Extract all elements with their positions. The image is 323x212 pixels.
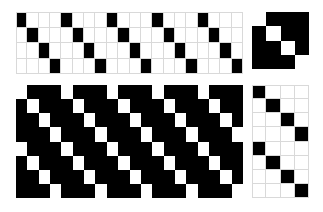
grid-cell: [152, 156, 163, 170]
grid-cell: [281, 26, 295, 40]
grid-cell: [50, 142, 61, 156]
grid-cell: [84, 43, 95, 59]
grid-cell: [232, 12, 243, 28]
grid-cell: [73, 127, 84, 141]
grid-cell: [84, 170, 95, 184]
grid-cell: [186, 142, 197, 156]
grid-cell: [107, 184, 118, 198]
grid-cell: [186, 85, 197, 99]
grid-cell: [50, 43, 61, 59]
grid-cell: [39, 142, 50, 156]
grid-cell: [130, 184, 141, 198]
grid-cell: [252, 41, 266, 55]
grid-cell: [220, 184, 231, 198]
grid-cell: [61, 85, 72, 99]
grid-cell: [281, 41, 295, 55]
grid-cell: [39, 99, 50, 113]
grid-cell: [107, 59, 118, 75]
grid-cell: [220, 113, 231, 127]
grid-cell: [95, 43, 106, 59]
grid-cell: [220, 142, 231, 156]
grid-cell: [50, 113, 61, 127]
grid-cell: [61, 170, 72, 184]
grid-cell: [232, 142, 243, 156]
grid-cell: [130, 12, 141, 28]
grid-cell: [50, 170, 61, 184]
grid-cell: [95, 127, 106, 141]
grid-cell: [39, 43, 50, 59]
grid-cell: [266, 184, 280, 198]
grid-cell: [175, 43, 186, 59]
grid-cell: [152, 43, 163, 59]
grid-cell: [209, 170, 220, 184]
grid-cell: [252, 184, 266, 198]
grid-cell: [16, 12, 27, 28]
grid-panel-bottom-left: [16, 85, 243, 198]
grid-cell: [175, 59, 186, 75]
grid-cell: [198, 85, 209, 99]
grid-cell: [186, 99, 197, 113]
grid-cell: [295, 142, 309, 156]
grid-cell: [175, 156, 186, 170]
grid-cell: [95, 59, 106, 75]
grid-cell: [220, 156, 231, 170]
grid-cell: [118, 12, 129, 28]
grid-cell: [175, 170, 186, 184]
grid-cell: [73, 156, 84, 170]
grid-cell: [209, 99, 220, 113]
grid-cell: [39, 184, 50, 198]
grid-cell: [27, 127, 38, 141]
grid-cell: [118, 142, 129, 156]
grid-cell: [39, 28, 50, 44]
grid-cell: [73, 170, 84, 184]
grid-cell: [209, 113, 220, 127]
grid-cell: [61, 28, 72, 44]
grid-cell: [266, 41, 280, 55]
grid-cell: [95, 99, 106, 113]
grid-cell: [61, 43, 72, 59]
grid-cell: [186, 113, 197, 127]
grid-cell: [16, 113, 27, 127]
grid-cell: [252, 55, 266, 69]
grid-cell: [95, 156, 106, 170]
grid-cell: [295, 127, 309, 141]
grid-cell: [152, 113, 163, 127]
grid-cell: [141, 127, 152, 141]
grid-cell: [198, 127, 209, 141]
grid-cell: [107, 142, 118, 156]
grid-cell: [186, 59, 197, 75]
grid-cell: [232, 59, 243, 75]
grid-cell: [175, 142, 186, 156]
grid-cell: [95, 184, 106, 198]
grid-cell: [281, 156, 295, 170]
grid-cell: [209, 184, 220, 198]
grid-cell: [130, 85, 141, 99]
grid-cell: [175, 184, 186, 198]
grid-cell: [152, 127, 163, 141]
grid-cell: [107, 43, 118, 59]
grid-cell: [186, 184, 197, 198]
grid-cell: [39, 156, 50, 170]
grid-cell: [27, 28, 38, 44]
grid-cell: [118, 170, 129, 184]
grid-cell: [73, 142, 84, 156]
grid-cell: [39, 85, 50, 99]
grid-cell: [141, 85, 152, 99]
grid-cell: [164, 156, 175, 170]
grid-cell: [95, 28, 106, 44]
grid-cell: [118, 127, 129, 141]
grid-cell: [130, 99, 141, 113]
grid-cell: [95, 170, 106, 184]
grid-cell: [16, 170, 27, 184]
grid-cell: [164, 184, 175, 198]
grid-cell: [73, 113, 84, 127]
grid-cell: [107, 113, 118, 127]
grid-cell: [141, 28, 152, 44]
grid-cell: [84, 142, 95, 156]
grid-cell: [164, 113, 175, 127]
grid-cell: [175, 85, 186, 99]
grid-cell: [50, 127, 61, 141]
grid-cell: [295, 184, 309, 198]
grid-cell: [152, 85, 163, 99]
grid-cell: [61, 156, 72, 170]
